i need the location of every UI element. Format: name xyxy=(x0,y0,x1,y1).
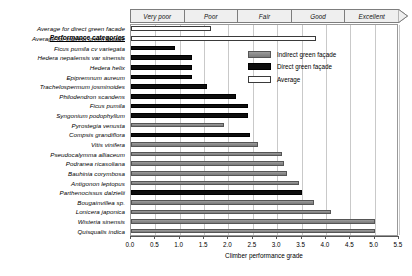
legend-label-average: Average xyxy=(277,76,300,83)
x-tick-label-11: 5.5 xyxy=(394,241,403,248)
chart-legend: Indirect green façadeDirect green façade… xyxy=(248,49,398,87)
bar-indirect-15 xyxy=(131,171,287,176)
row-label-6: Trachelospermum josminoides xyxy=(40,83,125,90)
bar-direct-11 xyxy=(131,133,250,138)
bar-direct-7 xyxy=(131,94,236,99)
row-label-1: Average for indirect green facade xyxy=(32,35,125,42)
row-label-7: Philodendron scandens xyxy=(59,93,125,100)
row-label-15: Bauhinia corymbosa xyxy=(68,170,125,177)
x-tick xyxy=(276,236,277,239)
bar-average-0 xyxy=(131,26,211,31)
performance-category-very-poor: Very poor xyxy=(130,9,184,23)
x-axis-line xyxy=(130,236,398,237)
x-tick xyxy=(227,236,228,239)
row-label-18: Bougainvillea sp. xyxy=(77,199,125,206)
category-band-arrow xyxy=(398,9,407,23)
bar-direct-17 xyxy=(131,190,302,195)
x-tick xyxy=(154,236,155,239)
bar-indirect-16 xyxy=(131,181,299,186)
x-tick xyxy=(130,236,131,239)
performance-category-excellent: Excellent xyxy=(344,9,398,23)
legend-item-direct: Direct green façade xyxy=(248,62,398,72)
legend-label-indirect: Indirect green façade xyxy=(277,51,336,58)
bar-indirect-14 xyxy=(131,161,284,166)
bar-direct-2 xyxy=(131,46,175,51)
row-label-4: Hedera helix xyxy=(90,64,125,71)
bar-indirect-12 xyxy=(131,142,258,147)
row-label-17: Parthenocissus dalzielii xyxy=(59,189,125,196)
performance-category-good: Good xyxy=(291,9,345,23)
x-tick xyxy=(179,236,180,239)
x-tick xyxy=(252,236,253,239)
row-label-0: Average for direct green facade xyxy=(37,25,125,32)
x-tick-label-3: 1.5 xyxy=(199,241,208,248)
row-label-5: Epipremnum aureum xyxy=(66,74,125,81)
legend-swatch-indirect xyxy=(248,51,271,58)
legend-item-average: Average xyxy=(248,74,398,84)
x-tick xyxy=(325,236,326,239)
x-tick-label-4: 2.0 xyxy=(223,241,232,248)
row-label-20: Wisteria sinensis xyxy=(78,218,125,225)
row-label-3: Hedera nepalensis var sinensis xyxy=(38,54,125,61)
climber-performance-chart: Very poorPoorFairGoodExcellent Performan… xyxy=(0,0,412,276)
bar-direct-8 xyxy=(131,104,248,109)
row-label-11: Compsis grandiflora xyxy=(69,131,125,138)
gridline xyxy=(399,25,400,235)
x-tick-label-8: 4.0 xyxy=(321,241,330,248)
bar-direct-9 xyxy=(131,113,248,118)
row-label-2: Ficus pumila cv variegata xyxy=(54,45,125,52)
performance-category-band: Very poorPoorFairGoodExcellent xyxy=(130,9,398,23)
bar-indirect-18 xyxy=(131,200,314,205)
bar-direct-4 xyxy=(131,65,192,70)
legend-item-indirect: Indirect green façade xyxy=(248,49,398,59)
x-tick xyxy=(301,236,302,239)
x-tick xyxy=(203,236,204,239)
x-axis-title: Climber performance grade xyxy=(130,252,398,259)
row-label-10: Pyrostegia venusta xyxy=(71,122,125,129)
x-tick-label-2: 1.0 xyxy=(174,241,183,248)
x-tick xyxy=(398,236,399,239)
x-tick-label-5: 2.5 xyxy=(247,241,256,248)
bar-indirect-13 xyxy=(131,152,282,157)
performance-category-poor: Poor xyxy=(184,9,238,23)
bar-indirect-20 xyxy=(131,219,375,224)
row-label-13: Pseudocalymma alliaceum xyxy=(50,151,125,158)
x-tick-label-9: 4.5 xyxy=(345,241,354,248)
x-tick xyxy=(374,236,375,239)
bar-indirect-19 xyxy=(131,210,331,215)
row-label-19: Lonicera japonica xyxy=(76,208,125,215)
bar-direct-6 xyxy=(131,84,207,89)
row-label-12: Vitis vinifera xyxy=(91,141,125,148)
row-label-8: Ficus pumila xyxy=(90,102,125,109)
row-label-21: Quisqualis indica xyxy=(77,228,125,235)
bar-indirect-21 xyxy=(131,229,375,234)
legend-swatch-average xyxy=(248,76,271,83)
bar-direct-3 xyxy=(131,55,192,60)
x-tick-label-6: 3.0 xyxy=(272,241,281,248)
legend-label-direct: Direct green façade xyxy=(277,63,332,70)
legend-swatch-direct xyxy=(248,63,271,70)
bar-indirect-10 xyxy=(131,123,224,128)
row-label-14: Podranea ricasoliana xyxy=(66,160,125,167)
row-label-16: Antigonon leptopus xyxy=(71,180,125,187)
row-label-9: Syngonium podophyllum xyxy=(56,112,125,119)
x-tick-label-10: 5.0 xyxy=(369,241,378,248)
category-axis-labels: Performance categories Average for direc… xyxy=(0,24,128,236)
x-tick-label-1: 0.5 xyxy=(150,241,159,248)
performance-category-fair: Fair xyxy=(237,9,291,23)
bar-average-1 xyxy=(131,36,316,41)
bar-direct-5 xyxy=(131,75,192,80)
x-tick-label-7: 3.5 xyxy=(296,241,305,248)
x-tick-label-0: 0.0 xyxy=(126,241,135,248)
x-tick xyxy=(349,236,350,239)
